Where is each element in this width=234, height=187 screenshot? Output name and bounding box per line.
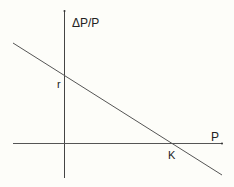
diagram-graphics [0,0,234,187]
y-intercept-label: r [57,79,61,90]
diagram-canvas: ΔP/P P r K [0,0,234,187]
x-axis-label: P [211,131,219,143]
trend-line [13,43,222,175]
y-axis-label: ΔP/P [72,17,99,29]
y-axis-tip [64,10,66,12]
x-intercept-label: K [168,150,175,161]
x-axis-tip [221,143,223,145]
